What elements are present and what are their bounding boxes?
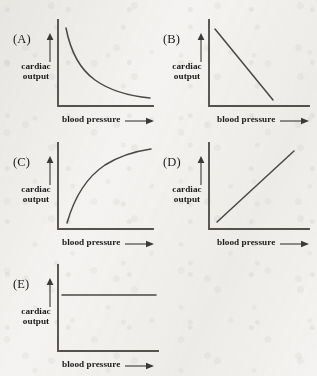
panel-b-y-arrow-icon <box>195 32 207 62</box>
panel-a-y-arrow-icon <box>44 32 56 62</box>
panel-e-y-axis-label: cardiac output <box>14 307 58 327</box>
panel-a-y-axis-label: cardiac output <box>14 62 58 82</box>
panel-a: (A) cardiac output blood pressure <box>0 14 158 128</box>
panel-e-y-arrow-icon <box>44 277 56 307</box>
panel-c-label: (C) <box>13 156 30 170</box>
panel-b-label: (B) <box>163 33 180 47</box>
panel-e-label: (E) <box>13 278 29 292</box>
panel-e-x-arrow-icon <box>125 361 155 371</box>
panel-a-y-axis-label-line2: output <box>14 72 58 82</box>
cardiac-output-vs-blood-pressure-figure: (A) cardiac output blood pressure (B) ca… <box>0 0 317 376</box>
panel-b-y-axis-label-line2: output <box>165 72 209 82</box>
panel-c-x-axis-label: blood pressure <box>62 238 120 248</box>
panel-c-y-axis-label: cardiac output <box>14 185 58 205</box>
panel-c-y-arrow-icon <box>44 155 56 185</box>
panel-e-plot <box>57 265 162 357</box>
panel-d-plot <box>208 143 313 235</box>
panel-b-y-axis-label: cardiac output <box>165 62 209 82</box>
panel-a-x-axis-label: blood pressure <box>62 115 120 125</box>
panel-e-y-axis-label-line2: output <box>14 317 58 327</box>
panel-c-x-arrow-icon <box>125 239 155 249</box>
panel-a-plot <box>57 20 157 112</box>
panel-c: (C) cardiac output blood pressure <box>0 137 158 251</box>
panel-d-y-arrow-icon <box>195 155 207 185</box>
panel-e-x-axis-label: blood pressure <box>62 360 120 370</box>
panel-d-x-arrow-icon <box>280 239 310 249</box>
panel-a-label: (A) <box>13 33 31 47</box>
panel-b-x-arrow-icon <box>280 116 310 126</box>
panel-d-label: (D) <box>163 156 181 170</box>
panel-a-x-arrow-icon <box>125 116 155 126</box>
panel-c-y-axis-label-line2: output <box>14 195 58 205</box>
panel-b-x-axis-label: blood pressure <box>217 115 275 125</box>
panel-d-x-axis-label: blood pressure <box>217 238 275 248</box>
panel-e: (E) cardiac output blood pressure <box>0 259 165 373</box>
panel-b-plot <box>208 20 313 112</box>
panel-b: (B) cardiac output blood pressure <box>155 14 317 128</box>
panel-d: (D) cardiac output blood pressure <box>155 137 317 251</box>
panel-c-plot <box>57 143 157 235</box>
panel-d-y-axis-label-line2: output <box>165 195 209 205</box>
panel-d-y-axis-label: cardiac output <box>165 185 209 205</box>
